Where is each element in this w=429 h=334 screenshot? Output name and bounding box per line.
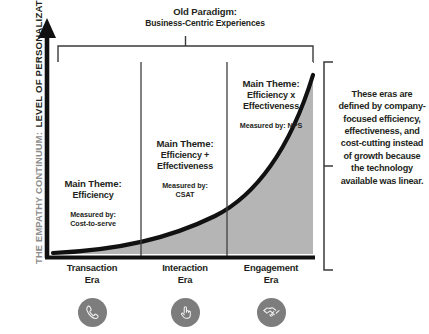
- handshake-icon: [257, 298, 286, 327]
- column-text-transaction: Main Theme: Efficiency Measured by: Cost…: [46, 178, 140, 228]
- measured-label-2: Measured by:: [142, 181, 228, 190]
- era-label-transaction: Transaction Era: [48, 262, 136, 286]
- measured-label-1: Measured by:: [46, 210, 140, 219]
- era-name-3: Engagement: [225, 262, 317, 274]
- phone-icon: [78, 298, 107, 327]
- era-label-interaction: Interaction Era: [143, 262, 227, 286]
- era-name-2: Interaction: [143, 262, 227, 274]
- side-note-text: These eras are defined by company-focuse…: [337, 88, 427, 187]
- measured-value-2: CSAT: [142, 190, 228, 199]
- theme-label-3: Main Theme:: [229, 78, 313, 90]
- y-axis-arrow-icon: [38, 18, 56, 38]
- column-text-engagement: Main Theme: Efficiency xEffectiveness Me…: [229, 78, 313, 130]
- theme-value-1: Efficiency: [46, 190, 140, 201]
- theme-value-3: Efficiency xEffectiveness: [229, 90, 313, 112]
- empathy-continuum-diagram: Old Paradigm: Business-Centric Experienc…: [0, 0, 429, 334]
- theme-value-2: Efficiency +Effectiveness: [142, 150, 228, 172]
- column-text-interaction: Main Theme: Efficiency +Effectiveness Me…: [142, 138, 228, 199]
- theme-label-1: Main Theme:: [46, 178, 140, 190]
- touch-hand-icon: [171, 298, 200, 327]
- measured-value-1: Cost-to-serve: [46, 219, 140, 228]
- theme-label-2: Main Theme:: [142, 138, 228, 150]
- era-word-2: Era: [143, 274, 227, 286]
- era-word-3: Era: [225, 274, 317, 286]
- old-paradigm-bracket: [58, 36, 313, 63]
- era-name-1: Transaction: [48, 262, 136, 274]
- side-note-bracket: [324, 62, 333, 270]
- era-word-1: Era: [48, 274, 136, 286]
- measured-label-3: Measured by: NPS: [229, 121, 313, 130]
- era-label-engagement: Engagement Era: [225, 262, 317, 286]
